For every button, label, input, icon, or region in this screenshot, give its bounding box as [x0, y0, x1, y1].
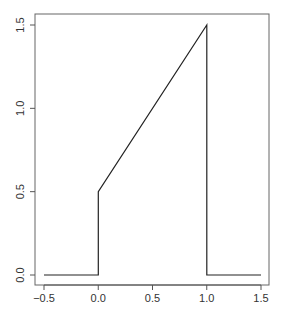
x-tick-label: 0.5 — [145, 292, 160, 304]
data-line — [44, 25, 261, 275]
y-tick-label: 1.0 — [14, 101, 26, 116]
y-tick-label: 0.5 — [14, 184, 26, 199]
x-axis: −0.50.00.51.01.5 — [33, 285, 269, 304]
y-tick-label: 0.0 — [14, 267, 26, 282]
x-tick-label: 0.0 — [91, 292, 106, 304]
chart: −0.50.00.51.01.5 0.00.51.01.5 — [0, 0, 285, 319]
x-tick-label: 1.5 — [253, 292, 268, 304]
y-tick-label: 1.5 — [14, 17, 26, 32]
y-axis: 0.00.51.01.5 — [14, 17, 35, 282]
x-tick-label: 1.0 — [199, 292, 214, 304]
x-tick-label: −0.5 — [33, 292, 55, 304]
plot-box — [35, 14, 269, 285]
